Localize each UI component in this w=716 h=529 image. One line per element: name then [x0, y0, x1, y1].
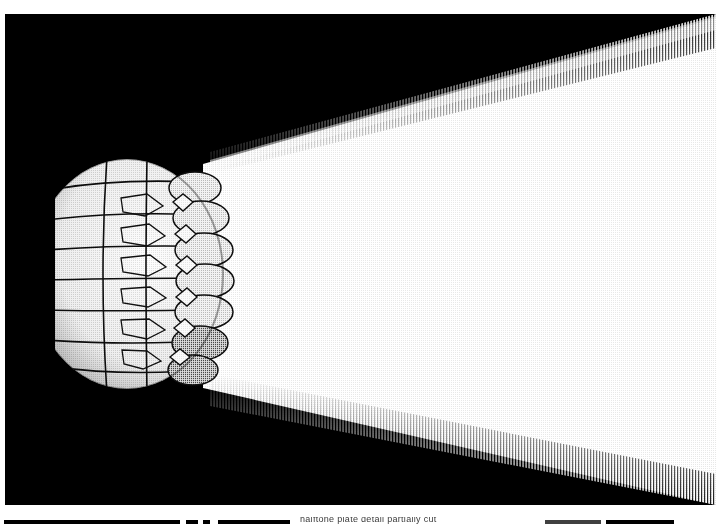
caption-strip: halftone plate detail partially cut: [0, 514, 716, 529]
caption-clipped-text: halftone plate detail partially cut: [300, 517, 530, 524]
caption-rule-right-grey: [545, 520, 601, 524]
caption-rule-left: [4, 520, 180, 524]
caption-clipped-text-line: halftone plate detail partially cut: [300, 517, 530, 524]
caption-rule-tick-a: [186, 520, 198, 524]
page: halftone plate detail partially cut: [0, 0, 716, 529]
caption-rule-right: [606, 520, 674, 524]
photo-plate: [5, 14, 716, 505]
caption-rule-mid: [218, 520, 290, 524]
dome-lens-assembly: [55, 154, 235, 394]
caption-rule-tick-b: [203, 520, 210, 524]
